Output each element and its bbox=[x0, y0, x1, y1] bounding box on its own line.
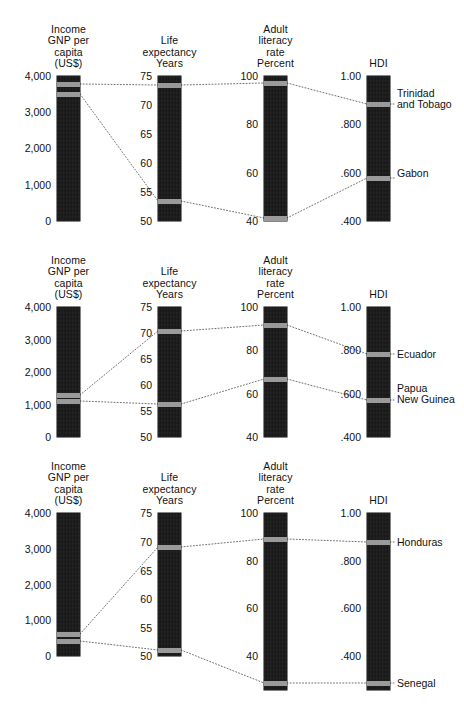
tick-life-expectancy-4: 55 bbox=[100, 623, 152, 634]
country-label-1: Senegal bbox=[397, 678, 436, 690]
marker-life-expectancy-0 bbox=[158, 545, 181, 550]
tick-income-gnp-1: 3,000 bbox=[0, 544, 51, 555]
tick-income-gnp-2: 2,000 bbox=[0, 580, 51, 591]
column-title-adult-literacy: Adult literacy rate Percent bbox=[216, 461, 336, 507]
marker-life-expectancy-1 bbox=[158, 648, 181, 653]
tick-adult-literacy-0: 100 bbox=[206, 508, 258, 519]
tick-adult-literacy-2: 60 bbox=[206, 603, 258, 614]
tick-income-gnp-3: 1,000 bbox=[0, 615, 51, 626]
tick-hdi-0: 1.00 bbox=[309, 508, 361, 519]
parallel-coordinates-figure: Income GNP per capita (US$)4,0003,0002,0… bbox=[0, 0, 464, 708]
tick-hdi-2: .600 bbox=[309, 603, 361, 614]
tick-life-expectancy-2: 65 bbox=[100, 566, 152, 577]
marker-income-gnp-0 bbox=[57, 632, 80, 637]
tick-life-expectancy-1: 70 bbox=[100, 537, 152, 548]
tick-adult-literacy-1: 80 bbox=[206, 556, 258, 567]
column-title-life-expectancy: Life expectancy Years bbox=[110, 472, 230, 507]
bar-life-expectancy bbox=[158, 513, 181, 656]
tick-life-expectancy-3: 60 bbox=[100, 594, 152, 605]
tick-life-expectancy-0: 75 bbox=[100, 508, 152, 519]
tick-adult-literacy-3: 40 bbox=[206, 651, 258, 662]
country-label-0: Honduras bbox=[397, 537, 443, 549]
marker-adult-literacy-0 bbox=[264, 537, 287, 542]
tick-life-expectancy-5: 50 bbox=[100, 651, 152, 662]
tick-hdi-3: .400 bbox=[309, 651, 361, 662]
marker-hdi-1 bbox=[367, 681, 390, 686]
marker-hdi-0 bbox=[367, 540, 390, 545]
tick-income-gnp-0: 4,000 bbox=[0, 508, 51, 519]
marker-adult-literacy-1 bbox=[264, 681, 287, 686]
tick-hdi-1: .800 bbox=[309, 556, 361, 567]
marker-income-gnp-1 bbox=[57, 639, 80, 644]
column-title-hdi: HDI bbox=[319, 495, 439, 507]
tick-income-gnp-4: 0 bbox=[0, 651, 51, 662]
panel-3: Income GNP per capita (US$)4,0003,0002,0… bbox=[0, 0, 464, 708]
